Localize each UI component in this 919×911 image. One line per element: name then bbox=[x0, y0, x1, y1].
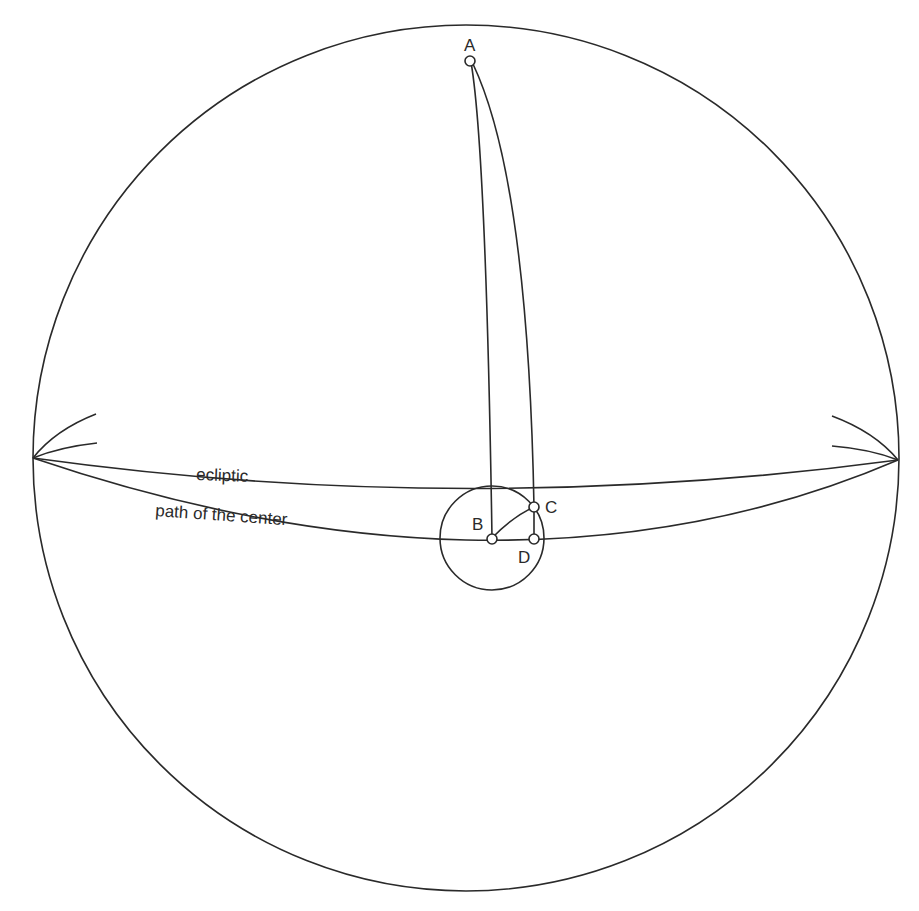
label-c: C bbox=[545, 498, 557, 517]
arc-a-to-b bbox=[471, 62, 492, 538]
right-back-arc-lower bbox=[832, 446, 898, 460]
left-back-arc-lower bbox=[33, 443, 97, 458]
point-d bbox=[529, 534, 539, 544]
sphere-outline bbox=[33, 25, 899, 891]
point-a bbox=[465, 56, 475, 66]
arc-a-to-c-d bbox=[473, 64, 534, 538]
ecliptic-label: ecliptic bbox=[196, 465, 249, 486]
celestial-sphere-diagram: A B C D ecliptic path of the center bbox=[0, 0, 919, 911]
path-of-center-curve bbox=[33, 458, 898, 540]
path-of-center-label: path of the center bbox=[155, 501, 289, 529]
label-d: D bbox=[518, 548, 530, 567]
label-a: A bbox=[464, 36, 476, 55]
left-back-arc-upper bbox=[33, 414, 96, 458]
label-b: B bbox=[472, 515, 483, 534]
right-back-arc-upper bbox=[832, 416, 898, 460]
ecliptic-curve bbox=[33, 458, 898, 489]
arc-b-to-c bbox=[492, 507, 534, 538]
point-b bbox=[487, 534, 497, 544]
point-c bbox=[529, 502, 539, 512]
